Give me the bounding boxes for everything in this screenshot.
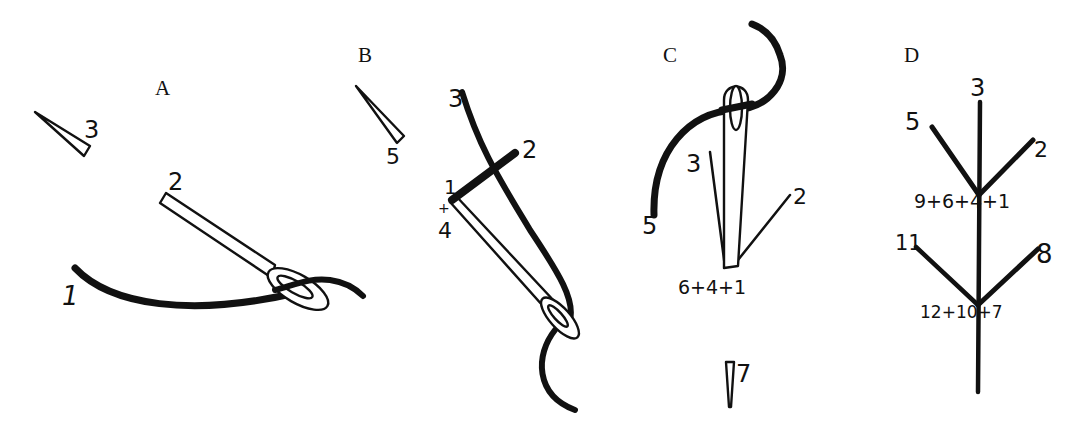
point-label-2: 2 — [168, 168, 183, 196]
point-label-3: 3 — [84, 116, 99, 144]
point-label-1: 1 — [444, 175, 457, 199]
point-label-3: 3 — [448, 85, 463, 113]
thread-tail — [542, 330, 575, 410]
panel-a: A 3 2 1 — [35, 76, 363, 318]
panel-b-letter: B — [358, 43, 372, 67]
point-label-12-10-7: 12+10+7 — [920, 302, 1003, 322]
stitch-11 — [916, 247, 978, 305]
stitch-2 — [979, 140, 1033, 195]
panel-d: D 3 5 2 9+6+4+1 11 8 12+10+7 — [895, 43, 1053, 392]
point-label-1: 1 — [62, 281, 79, 311]
point-label-5: 5 — [386, 144, 400, 169]
point-label-8: 8 — [1036, 239, 1053, 269]
point-label-7: 7 — [736, 360, 751, 388]
needle-tip-icon — [356, 86, 404, 143]
stem-stitch — [978, 102, 980, 392]
panel-b: B 5 3 2 1 + 4 — [356, 43, 585, 410]
thread — [462, 92, 571, 320]
point-label-2: 2 — [522, 136, 537, 164]
point-label-2: 2 — [1034, 137, 1048, 162]
point-label-3: 3 — [970, 74, 985, 102]
panel-d-letter: D — [904, 43, 919, 67]
panel-c-letter: C — [663, 43, 677, 67]
point-label-5: 5 — [905, 108, 920, 136]
needle-tip-icon — [726, 362, 734, 407]
point-label-3: 3 — [686, 150, 701, 178]
needle-icon — [724, 86, 748, 268]
needle-icon — [450, 196, 585, 344]
point-label-4: 4 — [438, 218, 452, 243]
stitch-3 — [710, 152, 725, 267]
point-label-6-4-1: 6+4+1 — [678, 276, 746, 298]
panel-a-letter: A — [155, 76, 171, 100]
panel-c: C 3 2 5 6+4+1 7 — [642, 24, 807, 407]
plus-sign: + — [438, 200, 450, 216]
point-label-11: 11 — [895, 231, 922, 255]
stitch-5 — [932, 127, 979, 195]
point-label-5: 5 — [642, 212, 657, 240]
stitch-8 — [978, 249, 1038, 305]
needle-tip-icon — [35, 112, 90, 156]
point-label-2: 2 — [793, 184, 807, 209]
point-label-9-6-4-1: 9+6+4+1 — [914, 190, 1010, 212]
stitch-diagram: A 3 2 1 B 5 — [0, 0, 1087, 434]
